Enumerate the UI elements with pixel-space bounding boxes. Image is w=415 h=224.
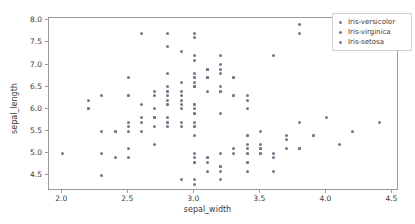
- data-point: [285, 147, 288, 150]
- data-point: [61, 152, 64, 155]
- data-point: [127, 94, 130, 97]
- legend-item-label: Iris-versicolor: [348, 17, 395, 27]
- data-point: [219, 152, 222, 155]
- data-point: [153, 94, 156, 97]
- data-point: [206, 170, 209, 173]
- data-point: [219, 165, 222, 168]
- data-point: [285, 134, 288, 137]
- data-point: [193, 156, 196, 159]
- data-point: [193, 76, 196, 79]
- data-point: [180, 121, 183, 124]
- data-point: [127, 130, 130, 133]
- data-point: [180, 125, 183, 128]
- data-point: [246, 143, 249, 146]
- x-axis-tick: [259, 190, 260, 193]
- legend: Iris-versicolorIris-virginicaIris-setosa: [332, 13, 412, 51]
- x-axis-tick: [325, 190, 326, 193]
- data-point: [219, 90, 222, 93]
- data-point: [193, 72, 196, 75]
- data-point: [180, 99, 183, 102]
- data-point: [166, 103, 169, 106]
- data-point: [166, 116, 169, 119]
- data-point: [180, 94, 183, 97]
- data-point: [127, 147, 130, 150]
- data-point: [246, 152, 249, 155]
- data-point: [166, 125, 169, 128]
- data-point: [193, 161, 196, 164]
- legend-item-label: Iris-setosa: [348, 37, 384, 47]
- y-axis-tick-label-text: 8.0: [30, 15, 42, 24]
- data-point: [140, 130, 143, 133]
- data-point: [140, 32, 143, 35]
- data-point: [193, 121, 196, 124]
- data-point: [166, 72, 169, 75]
- y-axis-tick-label: 5.0: [42, 148, 54, 157]
- data-point: [166, 94, 169, 97]
- data-point: [193, 125, 196, 128]
- data-point: [100, 174, 103, 177]
- x-axis-tick-label: 4.5: [385, 194, 397, 203]
- data-point: [193, 32, 196, 35]
- data-point: [140, 121, 143, 124]
- x-axis-tick-label: 2.5: [121, 194, 133, 203]
- y-axis-tick-label: 7.5: [42, 37, 54, 46]
- data-point: [219, 72, 222, 75]
- data-point: [272, 54, 275, 57]
- data-point: [193, 134, 196, 137]
- data-point: [87, 107, 90, 110]
- legend-marker-icon: [339, 21, 342, 24]
- data-point: [166, 45, 169, 48]
- data-point: [127, 121, 130, 124]
- legend-item[interactable]: Iris-setosa: [337, 37, 408, 47]
- data-point: [338, 143, 341, 146]
- data-point: [166, 121, 169, 124]
- legend-item-label: Iris-virginica: [348, 27, 391, 37]
- data-point: [166, 99, 169, 102]
- data-point: [193, 59, 196, 62]
- data-point: [206, 76, 209, 79]
- data-point: [114, 130, 117, 133]
- data-point: [127, 76, 130, 79]
- x-axis-tick: [193, 190, 194, 193]
- data-point: [193, 85, 196, 88]
- x-axis-tick: [391, 190, 392, 193]
- y-axis-tick-label: 5.5: [42, 126, 54, 135]
- data-point: [193, 54, 196, 57]
- y-axis-tick-label: 4.5: [42, 170, 54, 179]
- y-axis-tick-label: 6.5: [42, 81, 54, 90]
- legend-item[interactable]: Iris-virginica: [337, 27, 408, 37]
- data-point: [259, 152, 262, 155]
- data-point: [219, 112, 222, 115]
- data-point: [206, 68, 209, 71]
- data-point: [351, 130, 354, 133]
- x-axis-tick-label: 3.5: [253, 194, 265, 203]
- data-point: [140, 116, 143, 119]
- data-point: [193, 81, 196, 84]
- data-point: [219, 63, 222, 66]
- data-point: [232, 152, 235, 155]
- data-point: [246, 170, 249, 173]
- data-point: [325, 116, 328, 119]
- legend-marker-icon: [339, 41, 342, 44]
- data-point: [219, 54, 222, 57]
- data-point: [206, 161, 209, 164]
- data-point: [180, 81, 183, 84]
- data-point: [219, 68, 222, 71]
- data-point: [180, 90, 183, 93]
- data-point: [193, 178, 196, 181]
- legend-item[interactable]: Iris-versicolor: [337, 17, 408, 27]
- x-axis-tick: [61, 190, 62, 193]
- y-axis-tick-label: 8.0: [42, 15, 54, 24]
- scatter-plot-figure: 2.02.53.03.54.04.54.55.05.56.06.57.07.58…: [0, 0, 415, 224]
- data-point: [193, 36, 196, 39]
- y-axis-tick-label-text: 4.5: [30, 170, 42, 179]
- y-axis-label: sepal_length: [10, 49, 19, 169]
- data-point: [180, 50, 183, 53]
- x-axis-tick-label: 2.0: [55, 194, 67, 203]
- data-point: [232, 94, 235, 97]
- y-axis-tick-label-text: 6.0: [30, 103, 42, 112]
- legend-marker-icon: [339, 31, 342, 34]
- data-point: [100, 152, 103, 155]
- x-axis-tick: [127, 190, 128, 193]
- data-point: [246, 94, 249, 97]
